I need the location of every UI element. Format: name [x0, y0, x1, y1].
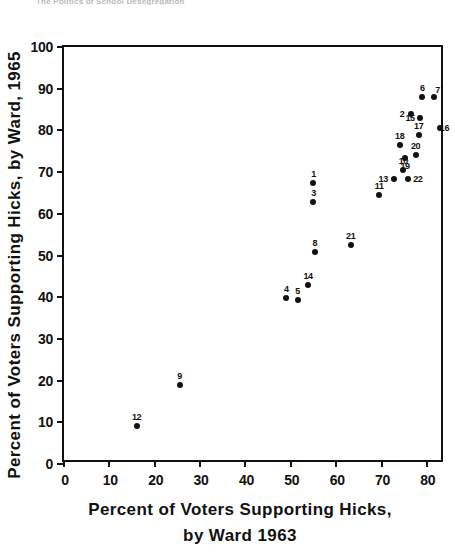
- y-axis-tick: 30: [57, 338, 64, 340]
- y-axis-tick: 50: [57, 255, 64, 257]
- scatter-chart-figure: 0102030405060708090100010203040506070801…: [0, 0, 455, 552]
- x-axis-tick-label: 40: [239, 472, 254, 488]
- data-point-label: 7: [435, 85, 440, 95]
- x-axis-tick-label: 0: [61, 472, 69, 488]
- data-point: [348, 242, 354, 248]
- y-axis-tick: 80: [57, 129, 64, 131]
- y-axis-title: Percent of Voters Supporting Hicks, by W…: [0, 30, 30, 500]
- data-point-label: 6: [420, 83, 425, 93]
- data-point-label: 9: [177, 371, 182, 381]
- y-axis-tick: 90: [57, 88, 64, 90]
- data-point-label: 1: [311, 169, 316, 179]
- x-axis-tick-label: 80: [420, 472, 435, 488]
- x-axis-tick: 50: [290, 460, 292, 467]
- y-axis-tick: 60: [57, 213, 64, 215]
- data-point-label: 5: [295, 286, 300, 296]
- x-axis-tick-label: 60: [330, 472, 345, 488]
- data-point-label: 2: [400, 109, 405, 119]
- y-axis-tick-label: 40: [38, 289, 53, 305]
- y-axis-tick: 40: [57, 296, 64, 298]
- y-axis-tick: 70: [57, 171, 64, 173]
- x-axis-tick: 10: [108, 460, 110, 467]
- data-point: [419, 94, 425, 100]
- data-point: [310, 199, 316, 205]
- data-point-label: 13: [379, 174, 388, 184]
- y-axis-tick-label: 100: [31, 39, 53, 55]
- data-point-label: 21: [346, 231, 355, 241]
- data-point: [295, 297, 301, 303]
- data-point: [405, 176, 411, 182]
- x-axis-tick-label: 50: [284, 472, 299, 488]
- data-point-label: 3: [311, 188, 316, 198]
- x-axis-tick-label: 20: [148, 472, 163, 488]
- y-axis-tick-label: 20: [38, 373, 53, 389]
- y-axis-tick-label: 30: [38, 331, 53, 347]
- x-axis-tick: 30: [199, 460, 201, 467]
- y-axis-tick: 100: [57, 46, 64, 48]
- data-point-label: 20: [411, 141, 420, 151]
- data-point: [312, 249, 318, 255]
- y-axis-tick-label: 50: [38, 248, 53, 264]
- y-axis-tick-label: 90: [38, 81, 53, 97]
- data-point-label: 14: [303, 271, 312, 281]
- y-axis-tick: 10: [57, 421, 64, 423]
- data-point: [397, 142, 403, 148]
- data-point-label: 17: [414, 121, 423, 131]
- data-point: [416, 132, 422, 138]
- x-axis-tick: 40: [244, 460, 246, 467]
- x-axis-tick: 70: [381, 460, 383, 467]
- x-axis-title: Percent of Voters Supporting Hicks, by W…: [40, 497, 440, 549]
- x-axis-title-line1: Percent of Voters Supporting Hicks,: [88, 500, 392, 519]
- x-axis-tick-label: 10: [103, 472, 118, 488]
- data-point-label: 18: [395, 131, 404, 141]
- y-axis-tick-label: 10: [38, 414, 53, 430]
- x-axis-tick: 80: [426, 460, 428, 467]
- data-point: [310, 180, 316, 186]
- data-point-label: 4: [284, 284, 289, 294]
- data-point: [376, 192, 382, 198]
- data-point: [391, 176, 397, 182]
- y-axis-tick-label: 70: [38, 164, 53, 180]
- data-point-label: 22: [413, 174, 422, 184]
- data-point: [305, 282, 311, 288]
- x-axis-tick-label: 70: [375, 472, 390, 488]
- plot-area: 0102030405060708090100010203040506070801…: [62, 45, 443, 462]
- data-point-label: 19: [400, 161, 409, 171]
- data-point: [413, 152, 419, 158]
- data-point-label: 12: [132, 412, 141, 422]
- data-point-label: 16: [440, 123, 449, 133]
- y-axis-tick-label: 60: [38, 206, 53, 222]
- x-axis-title-line2: by Ward 1963: [40, 523, 440, 549]
- x-axis-tick: 20: [154, 460, 156, 467]
- y-axis-tick: 20: [57, 380, 64, 382]
- y-axis-tick-label: 0: [46, 456, 54, 472]
- data-point: [134, 423, 140, 429]
- data-point: [283, 295, 289, 301]
- x-axis-tick-label: 30: [194, 472, 209, 488]
- data-point-label: 8: [313, 238, 318, 248]
- x-axis-tick: 0: [63, 460, 65, 467]
- y-axis-tick-label: 80: [38, 122, 53, 138]
- data-point: [177, 382, 183, 388]
- x-axis-tick: 60: [335, 460, 337, 467]
